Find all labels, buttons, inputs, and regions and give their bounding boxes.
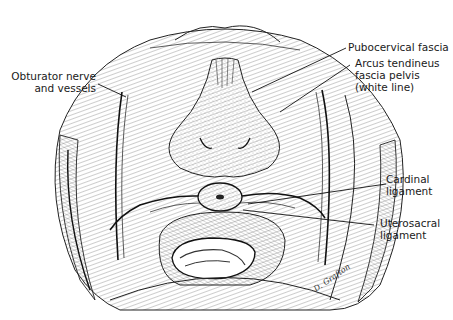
label-line: and vessels <box>2 82 96 94</box>
label-line: ligament <box>380 229 440 241</box>
label-line: Obturator nerve <box>2 70 96 82</box>
rectum <box>159 212 285 285</box>
label-pubocervical-fascia: Pubocervical fascia <box>348 41 449 53</box>
label-arcus-tendineus: Arcus tendineus fascia pelvis (white lin… <box>355 57 440 93</box>
label-uterosacral-ligament: Uterosacral ligament <box>380 217 440 241</box>
label-line: fascia pelvis <box>355 69 440 81</box>
label-line: Pubocervical fascia <box>348 41 449 53</box>
label-line: ligament <box>386 185 432 197</box>
label-cardinal-ligament: Cardinal ligament <box>386 173 432 197</box>
label-line: Arcus tendineus <box>355 57 440 69</box>
label-line: (white line) <box>355 81 440 93</box>
anatomy-figure: D. Grafton Obturator nerve and vessels P… <box>0 0 453 320</box>
label-line: Uterosacral <box>380 217 440 229</box>
label-obturator-nerve: Obturator nerve and vessels <box>2 70 96 94</box>
label-line: Cardinal <box>386 173 432 185</box>
